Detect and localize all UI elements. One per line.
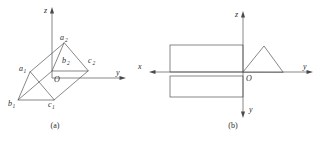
panel-a-caption: (a) xyxy=(51,121,60,130)
vertex-a1-base: a xyxy=(19,64,23,73)
vertex-c2-base: c xyxy=(88,56,92,65)
panel-b-rectangles xyxy=(170,45,243,97)
vertex-a2-sub: 2 xyxy=(65,37,68,43)
vertex-b2-base: b xyxy=(62,56,66,65)
technical-drawing-svg: O z y a 2 b 2 c 2 a 1 xyxy=(0,0,328,141)
panel-a-vertex-c1: c 1 xyxy=(48,100,55,110)
vertex-b2-sub: 2 xyxy=(67,60,70,66)
panel-b-triangle xyxy=(243,46,283,72)
panel-b-z-axis-label: z xyxy=(234,10,239,19)
panel-a-vertex-a2: a 2 xyxy=(60,33,68,43)
panel-a-y-axis-label: y xyxy=(115,68,120,77)
panel-a-vertex-c2: c 2 xyxy=(88,56,96,66)
vertex-a2-base: a xyxy=(60,33,64,42)
vertex-b1-base: b xyxy=(8,99,12,108)
panel-b-x-axis-label: x xyxy=(137,62,142,71)
panel-b-origin-label: O xyxy=(246,74,252,83)
panel-a-group: O z y a 2 b 2 c 2 a 1 xyxy=(8,6,126,130)
figure-container: O z y a 2 b 2 c 2 a 1 xyxy=(0,0,328,141)
panel-b-group: O z y x y (b) xyxy=(137,10,313,130)
panel-a-rear-triangle xyxy=(52,43,88,71)
panel-b-caption: (b) xyxy=(228,121,238,130)
vertex-c2-sub: 2 xyxy=(93,60,96,66)
panel-a-vertex-b1: b 1 xyxy=(8,99,16,109)
panel-a-vertex-a1: a 1 xyxy=(19,64,27,74)
vertex-c1-sub: 1 xyxy=(52,104,55,110)
vertex-a1-sub: 1 xyxy=(24,68,27,74)
panel-b-y-axis-label: y xyxy=(302,62,307,71)
panel-a-vertex-b2: b 2 xyxy=(62,56,70,66)
panel-a-origin-label: O xyxy=(54,75,60,84)
panel-a-y-axis xyxy=(52,76,126,80)
panel-a-prism-edges xyxy=(18,43,88,100)
panel-a-z-axis-label: z xyxy=(43,6,48,15)
vertex-b1-sub: 1 xyxy=(13,103,16,109)
panel-b-y-down-axis-label: y xyxy=(248,105,253,114)
